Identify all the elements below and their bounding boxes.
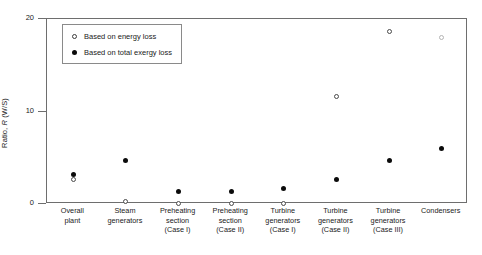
x-axis-category-line: Turbine bbox=[257, 206, 310, 216]
data-point-exergy-loss bbox=[176, 189, 181, 194]
x-axis-category-line: Turbine bbox=[309, 206, 362, 216]
x-axis-category-label: Preheatingsection(Case I) bbox=[151, 206, 204, 235]
x-axis-categories: OverallplantSteamgeneratorsPreheatingsec… bbox=[46, 206, 467, 252]
data-point-energy-loss bbox=[334, 94, 339, 99]
y-axis-label: Ratio, R (W/S) bbox=[0, 78, 9, 168]
x-axis-category-line: (Case II) bbox=[309, 225, 362, 235]
x-axis-category-label: Steamgenerators bbox=[99, 206, 152, 225]
x-axis-category-line: (Case III) bbox=[362, 225, 415, 235]
x-axis-category-line: (Case I) bbox=[151, 225, 204, 235]
x-axis-category-line: Preheating bbox=[151, 206, 204, 216]
data-point-energy-loss bbox=[387, 29, 392, 34]
open-circle-icon bbox=[70, 34, 79, 39]
y-axis-tick-label: 20 bbox=[0, 13, 34, 22]
x-axis-category-line: (Case I) bbox=[257, 225, 310, 235]
x-axis-category-line: Condensers bbox=[414, 206, 467, 216]
x-axis-category-line: generators bbox=[257, 216, 310, 226]
chart-legend: Based on energy loss Based on total exer… bbox=[62, 24, 182, 64]
y-axis-tick-label: 10 bbox=[0, 106, 34, 115]
data-point-exergy-loss bbox=[439, 146, 444, 151]
data-point-energy-loss bbox=[123, 199, 128, 204]
x-axis-category-line: section bbox=[151, 216, 204, 226]
x-axis-category-line: section bbox=[204, 216, 257, 226]
x-axis-category-label: Turbinegenerators(Case I) bbox=[257, 206, 310, 235]
x-axis-category-line: Overall bbox=[46, 206, 99, 216]
data-point-energy-loss bbox=[71, 177, 76, 182]
x-axis-category-label: Condensers bbox=[414, 206, 467, 216]
x-axis-category-label: Turbinegenerators(Case II) bbox=[309, 206, 362, 235]
legend-label-exergy-loss: Based on total exergy loss bbox=[84, 48, 172, 57]
x-axis-category-line: Steam bbox=[99, 206, 152, 216]
filled-circle-icon bbox=[70, 50, 79, 55]
legend-item-exergy-loss: Based on total exergy loss bbox=[70, 46, 172, 58]
chart-figure: Ratio, R (W/S) 01020 Based on energy los… bbox=[0, 0, 482, 255]
x-axis-category-line: generators bbox=[362, 216, 415, 226]
data-point-exergy-loss bbox=[229, 189, 234, 194]
data-point-exergy-loss bbox=[71, 172, 76, 177]
y-axis-tick bbox=[38, 203, 46, 204]
x-axis-category-line: (Case II) bbox=[204, 225, 257, 235]
data-point-exergy-loss bbox=[387, 158, 392, 163]
legend-label-energy-loss: Based on energy loss bbox=[84, 32, 156, 41]
y-axis-label-prefix: Ratio, bbox=[0, 126, 9, 148]
x-axis-category-line: Turbine bbox=[362, 206, 415, 216]
x-axis-category-line: Preheating bbox=[204, 206, 257, 216]
x-axis-category-label: Overallplant bbox=[46, 206, 99, 225]
data-point-energy-loss bbox=[439, 35, 444, 40]
legend-item-energy-loss: Based on energy loss bbox=[70, 30, 172, 42]
data-point-exergy-loss bbox=[123, 158, 128, 163]
x-axis-category-line: generators bbox=[99, 216, 152, 226]
data-point-exergy-loss bbox=[334, 177, 339, 182]
data-point-energy-loss bbox=[176, 201, 181, 206]
x-axis-category-label: Preheatingsection(Case II) bbox=[204, 206, 257, 235]
y-axis-tick bbox=[38, 111, 46, 112]
x-axis-category-label: Turbinegenerators(Case III) bbox=[362, 206, 415, 235]
y-axis-label-symbol: R bbox=[0, 120, 9, 126]
x-axis-category-line: plant bbox=[46, 216, 99, 226]
y-axis-tick-label: 0 bbox=[0, 198, 34, 207]
y-axis-tick bbox=[38, 18, 46, 19]
data-point-exergy-loss bbox=[281, 186, 286, 191]
x-axis-category-line: generators bbox=[309, 216, 362, 226]
